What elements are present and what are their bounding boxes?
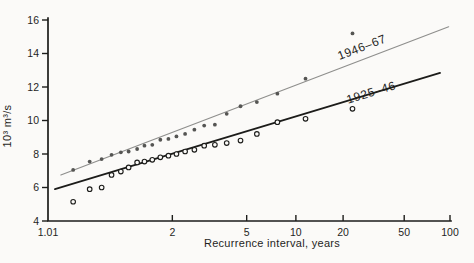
data-point-filled xyxy=(183,132,187,136)
data-point-filled xyxy=(202,124,206,128)
x-tick-label: 2 xyxy=(169,226,175,238)
data-point-open xyxy=(202,143,207,148)
data-point-open xyxy=(166,153,171,158)
data-point-filled xyxy=(135,147,139,151)
data-point-open xyxy=(126,165,131,170)
flood-frequency-figure: 468101214161.0125102050100Recurrence int… xyxy=(0,0,474,263)
data-point-filled xyxy=(158,138,162,142)
data-point-open xyxy=(255,132,260,137)
data-point-open xyxy=(213,142,218,147)
data-point-open xyxy=(119,169,124,174)
x-tick-label: 100 xyxy=(441,226,459,238)
data-point-filled xyxy=(119,150,123,154)
x-tick-label: 20 xyxy=(337,226,349,238)
data-point-open xyxy=(238,138,243,143)
data-point-filled xyxy=(213,123,217,127)
y-axis-title: 10³ m³/s xyxy=(1,104,13,147)
y-tick-label: 10 xyxy=(27,114,39,126)
data-point-open xyxy=(87,187,92,192)
y-tick-label: 8 xyxy=(33,148,39,160)
data-point-filled xyxy=(100,157,104,161)
x-tick-label: 5 xyxy=(244,226,250,238)
data-point-filled xyxy=(351,32,355,36)
data-point-filled xyxy=(175,135,179,139)
x-tick-label: 50 xyxy=(398,226,410,238)
data-point-open xyxy=(183,149,188,154)
y-tick-label: 14 xyxy=(27,47,39,59)
data-point-open xyxy=(275,120,280,125)
data-point-filled xyxy=(275,92,279,96)
data-point-filled xyxy=(150,143,154,147)
data-point-open xyxy=(150,158,155,163)
y-tick-label: 16 xyxy=(27,14,39,26)
data-point-open xyxy=(192,148,197,153)
data-point-open xyxy=(303,117,308,122)
y-tick-label: 6 xyxy=(33,181,39,193)
data-point-filled xyxy=(255,100,259,104)
data-point-filled xyxy=(304,77,308,81)
figure-background xyxy=(0,0,474,263)
x-tick-label: 1.01 xyxy=(38,226,59,238)
data-point-open xyxy=(109,173,114,178)
data-point-filled xyxy=(192,128,196,132)
data-point-open xyxy=(71,199,76,204)
data-point-open xyxy=(224,141,229,146)
data-point-filled xyxy=(143,144,147,148)
data-point-filled xyxy=(88,160,92,164)
data-point-filled xyxy=(225,112,229,116)
data-point-open xyxy=(158,155,163,160)
data-point-filled xyxy=(71,168,75,172)
data-point-filled xyxy=(127,150,131,154)
x-tick-label: 10 xyxy=(290,226,302,238)
data-point-open xyxy=(142,159,147,164)
data-point-open xyxy=(99,185,104,190)
x-axis-title: Recurrence interval, years xyxy=(204,237,340,249)
data-point-filled xyxy=(239,104,243,108)
data-point-open xyxy=(174,152,179,157)
chart-canvas: 468101214161.0125102050100Recurrence int… xyxy=(0,0,474,263)
y-tick-label: 12 xyxy=(27,81,39,93)
data-point-open xyxy=(135,160,140,165)
data-point-filled xyxy=(110,153,114,157)
data-point-filled xyxy=(167,137,171,141)
data-point-open xyxy=(350,106,355,111)
